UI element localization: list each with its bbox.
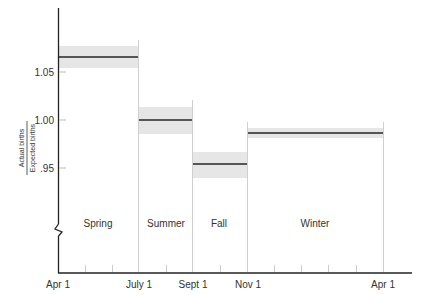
y-ticks <box>59 72 66 168</box>
xtick-label: Sept 1 <box>179 279 208 290</box>
y-axis-label: Actual births Expected births <box>18 121 37 175</box>
xtick-label: Apr 1 <box>46 279 70 290</box>
value-lines <box>59 57 383 164</box>
xtick-label: Nov 1 <box>235 279 262 290</box>
season-label-summer: Summer <box>147 218 185 229</box>
season-label-winter: Winter <box>301 218 331 229</box>
season-label-spring: Spring <box>84 218 113 229</box>
ytick-label: 1.05 <box>35 67 55 78</box>
ylabel-numerator: Actual births <box>18 128 25 167</box>
ytick-label: 1.00 <box>35 115 55 126</box>
ytick-label: .95 <box>40 163 54 174</box>
xtick-label: July 1 <box>126 279 153 290</box>
x-minor-ticks <box>86 265 357 272</box>
season-label-fall: Fall <box>211 218 227 229</box>
xtick-label: Apr 1 <box>371 279 395 290</box>
period-dividers <box>139 40 384 272</box>
ylabel-denominator: Expected births <box>29 123 37 172</box>
confidence-bands <box>59 46 383 178</box>
seasonal-births-chart: 1.05 1.00 .95 Actual births Expected bir… <box>0 0 428 295</box>
